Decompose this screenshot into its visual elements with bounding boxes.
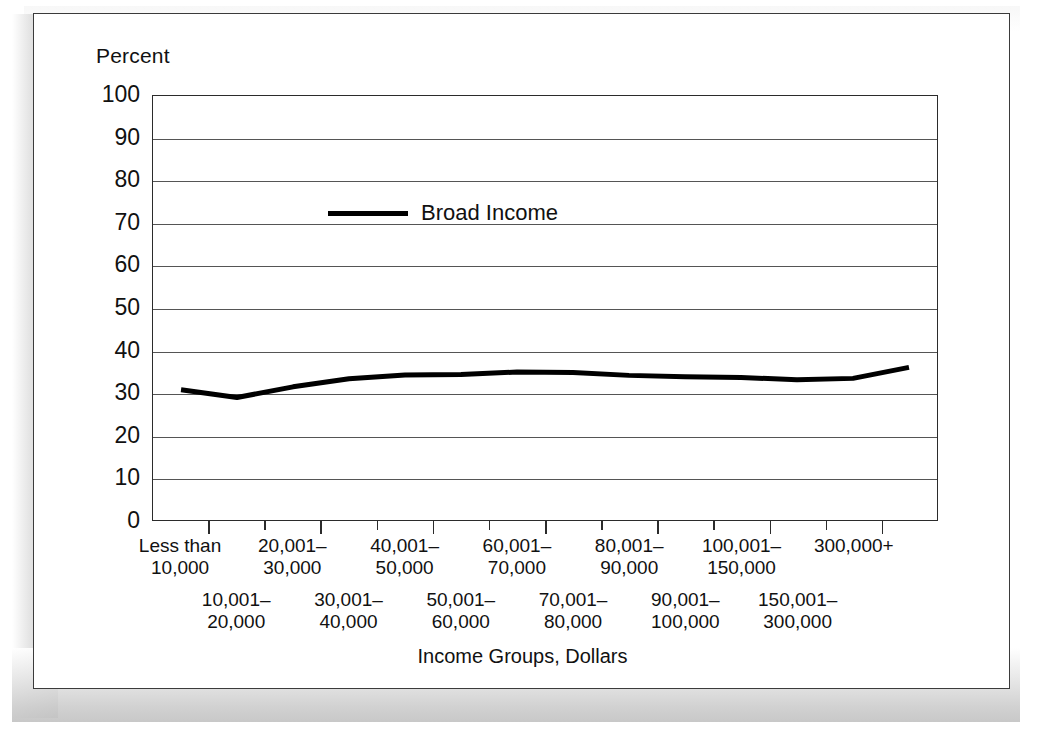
x-category-line1: 300,000+ (779, 535, 929, 557)
legend: Broad Income (328, 200, 558, 226)
y-tick-label-80: 80 (86, 168, 140, 191)
series-line-broad-income (153, 96, 937, 520)
y-tick-label-90: 90 (86, 126, 140, 149)
x-tick-1 (208, 521, 210, 534)
y-tick-label-0: 0 (86, 509, 140, 532)
x-category-label-upper-6: 300,000+ (779, 535, 929, 557)
x-tick-3 (320, 521, 322, 534)
x-tick-4 (377, 521, 379, 530)
x-tick-11 (770, 521, 772, 534)
y-tick-label-70: 70 (86, 211, 140, 234)
plot-area: Broad Income (152, 95, 938, 521)
x-category-line2: 300,000 (723, 611, 873, 633)
x-tick-12 (826, 521, 828, 530)
legend-label-broad-income: Broad Income (421, 200, 558, 226)
y-tick-label-20: 20 (86, 424, 140, 447)
x-tick-6 (489, 521, 491, 530)
x-tick-7 (545, 521, 547, 534)
x-tick-8 (601, 521, 603, 530)
x-axis-title: Income Groups, Dollars (0, 645, 1045, 668)
scanned-page: Percent 0102030405060708090100 Broad Inc… (0, 0, 1045, 731)
y-tick-label-30: 30 (86, 381, 140, 404)
x-tick-group (152, 521, 938, 534)
x-tick-5 (433, 521, 435, 534)
x-tick-2 (264, 521, 266, 530)
x-category-line2: 150,000 (667, 557, 817, 579)
x-category-line1: 150,001– (723, 589, 873, 611)
y-tick-label-60: 60 (86, 253, 140, 276)
y-tick-label-50: 50 (86, 296, 140, 319)
x-tick-10 (713, 521, 715, 530)
y-tick-label-10: 10 (86, 466, 140, 489)
x-category-label-lower-5: 150,001–300,000 (723, 589, 873, 633)
y-tick-label-40: 40 (86, 339, 140, 362)
x-tick-9 (657, 521, 659, 534)
legend-swatch-broad-income (328, 211, 408, 216)
x-tick-13 (882, 521, 884, 534)
y-tick-label-100: 100 (86, 83, 140, 106)
